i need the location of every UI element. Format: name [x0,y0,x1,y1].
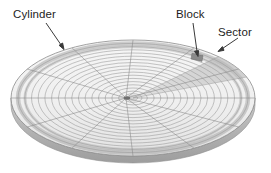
cylinder-label: Cylinder [13,8,56,20]
sector-arrow [218,38,238,52]
platter-hub [124,96,130,100]
sector-label: Sector [218,26,252,38]
cylinder-arrow [46,23,64,50]
block-label: Block [176,8,205,20]
disk-geometry-figure: Cylinder Block Sector [0,0,271,173]
